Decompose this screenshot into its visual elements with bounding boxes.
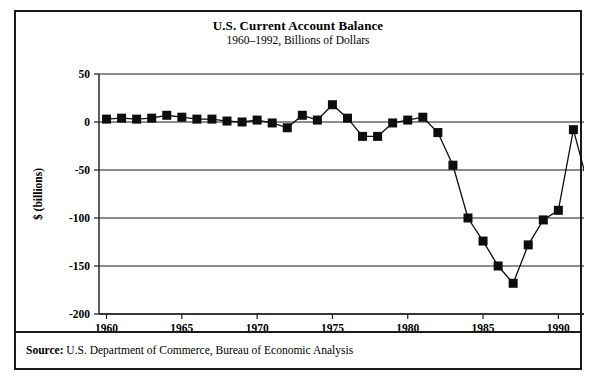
data-point-marker	[433, 128, 442, 137]
data-point-marker	[328, 100, 337, 109]
data-point-marker	[207, 115, 216, 124]
data-point-marker	[238, 118, 247, 127]
data-point-marker	[358, 132, 367, 141]
source-label: Source:	[26, 344, 63, 356]
y-tick-label: 50	[79, 68, 91, 80]
data-point-marker	[463, 214, 472, 223]
y-tick-label: -200	[69, 308, 90, 320]
data-point-marker	[223, 117, 232, 126]
source-divider	[16, 331, 580, 333]
data-point-marker	[253, 116, 262, 125]
data-point-marker	[147, 114, 156, 123]
data-point-marker	[509, 279, 518, 288]
figure-frame: U.S. Current Account Balance 1960–1992, …	[14, 10, 582, 370]
y-tick-label: -50	[75, 164, 91, 176]
data-point-marker	[298, 111, 307, 120]
data-point-marker	[343, 114, 352, 123]
data-point-marker	[177, 113, 186, 122]
data-point-marker	[268, 118, 277, 127]
data-point-marker	[132, 115, 141, 124]
series-markers	[102, 100, 584, 288]
axis-lines	[99, 74, 584, 314]
series-line-current-account	[107, 105, 584, 284]
y-axis-title: $ (billions)	[32, 168, 45, 220]
data-point-marker	[418, 113, 427, 122]
data-point-marker	[403, 116, 412, 125]
grid-lines	[99, 74, 584, 314]
data-point-marker	[388, 118, 397, 127]
data-point-marker	[373, 132, 382, 141]
y-axis-ticks: 500-50-100-150-200	[69, 68, 99, 320]
data-point-marker	[569, 125, 578, 134]
line-chart-plot: 500-50-100-150-200 196019651970197519801…	[16, 12, 584, 342]
data-point-marker	[283, 123, 292, 132]
data-point-marker	[313, 116, 322, 125]
data-point-marker	[524, 240, 533, 249]
data-point-marker	[192, 115, 201, 124]
data-point-marker	[102, 115, 111, 124]
data-point-marker	[539, 215, 548, 224]
y-tick-label: -150	[69, 260, 90, 272]
source-note: Source: U.S. Department of Commerce, Bur…	[26, 342, 353, 358]
data-point-marker	[494, 262, 503, 271]
data-point-marker	[479, 237, 488, 246]
y-tick-label: 0	[84, 116, 90, 128]
data-point-marker	[162, 111, 171, 120]
data-point-marker	[554, 206, 563, 215]
data-point-marker	[117, 114, 126, 123]
y-tick-label: -100	[69, 212, 90, 224]
data-point-marker	[448, 161, 457, 170]
source-text: U.S. Department of Commerce, Bureau of E…	[63, 344, 353, 356]
